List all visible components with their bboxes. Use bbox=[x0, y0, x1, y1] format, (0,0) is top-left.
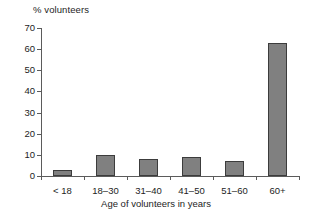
y-tick-mark bbox=[37, 155, 41, 156]
bar bbox=[225, 161, 244, 176]
y-tick-label: 50 bbox=[24, 64, 35, 75]
x-tick-label: 41–50 bbox=[178, 185, 204, 196]
y-tick-mark bbox=[37, 28, 41, 29]
bar bbox=[53, 170, 72, 176]
y-tick-mark bbox=[37, 134, 41, 135]
y-tick-label: 20 bbox=[24, 128, 35, 139]
x-tick-mark bbox=[84, 176, 85, 180]
x-tick-mark bbox=[127, 176, 128, 180]
y-axis-line bbox=[41, 28, 42, 176]
bar bbox=[182, 157, 201, 176]
x-tick-label: 18–30 bbox=[92, 185, 118, 196]
x-tick-label: 60+ bbox=[269, 185, 285, 196]
x-tick-mark bbox=[256, 176, 257, 180]
y-tick-label: 40 bbox=[24, 85, 35, 96]
y-tick-mark bbox=[37, 113, 41, 114]
x-axis-title: Age of volunteers in years bbox=[0, 198, 312, 209]
bar bbox=[139, 159, 158, 176]
y-tick-label: 60 bbox=[24, 43, 35, 54]
bar bbox=[268, 43, 287, 176]
chart-figure: % volunteers 010203040506070 < 1818–3031… bbox=[0, 0, 312, 223]
y-tick-label: 70 bbox=[24, 22, 35, 33]
y-tick-label: 10 bbox=[24, 149, 35, 160]
y-tick-label: 30 bbox=[24, 107, 35, 118]
y-tick-mark bbox=[37, 91, 41, 92]
y-axis-title: % volunteers bbox=[33, 4, 89, 15]
x-tick-label: < 18 bbox=[53, 185, 72, 196]
x-tick-mark bbox=[170, 176, 171, 180]
y-tick-mark bbox=[37, 49, 41, 50]
plot-area: 010203040506070 < 1818–3031–4041–5051–60… bbox=[41, 28, 299, 176]
x-tick-mark bbox=[213, 176, 214, 180]
bar bbox=[96, 155, 115, 176]
y-tick-mark bbox=[37, 70, 41, 71]
x-tick-label: 51–60 bbox=[221, 185, 247, 196]
x-tick-mark bbox=[299, 176, 300, 180]
x-tick-label: 31–40 bbox=[135, 185, 161, 196]
y-tick-label: 0 bbox=[30, 170, 35, 181]
x-tick-mark bbox=[41, 176, 42, 180]
